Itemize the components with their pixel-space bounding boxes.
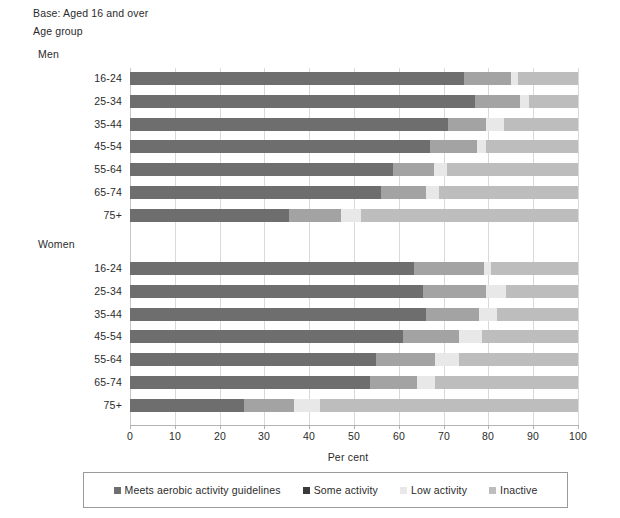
x-tick-label: 100 xyxy=(558,430,598,442)
stacked-bar xyxy=(130,72,578,85)
bar-segment xyxy=(341,209,361,222)
bar-row: 16-24 xyxy=(0,258,620,280)
legend-label: Meets aerobic activity guidelines xyxy=(125,484,281,496)
stacked-bar xyxy=(130,186,578,199)
x-tick-label: 20 xyxy=(200,430,240,442)
bar-segment xyxy=(130,209,289,222)
bar-row: 45-54 xyxy=(0,136,620,158)
bar-row-label: 45-54 xyxy=(0,330,122,342)
stacked-bar xyxy=(130,330,578,343)
bar-segment xyxy=(477,140,486,153)
legend-swatch-icon xyxy=(114,487,121,494)
bar-segment xyxy=(381,186,426,199)
legend-label: Some activity xyxy=(314,484,378,496)
bar-row: 35-44 xyxy=(0,114,620,136)
bar-segment xyxy=(504,118,578,131)
bar-row: 35-44 xyxy=(0,304,620,326)
bar-row: 45-54 xyxy=(0,326,620,348)
bar-segment xyxy=(130,140,430,153)
bar-segment xyxy=(370,376,417,389)
bar-segment xyxy=(479,308,497,321)
bar-segment xyxy=(448,118,486,131)
bar-segment xyxy=(464,72,511,85)
bar-segment xyxy=(361,209,578,222)
legend-item[interactable]: Some activity xyxy=(303,484,378,496)
x-tick xyxy=(220,425,221,429)
bar-row-label: 35-44 xyxy=(0,118,122,130)
bar-segment xyxy=(430,140,477,153)
x-tick xyxy=(399,425,400,429)
bar-segment xyxy=(320,399,578,412)
bar-segment xyxy=(130,330,403,343)
bar-segment xyxy=(130,308,426,321)
bar-segment xyxy=(497,308,578,321)
bar-row-label: 75+ xyxy=(0,399,122,411)
bar-segment xyxy=(486,140,578,153)
stacked-bar xyxy=(130,118,578,131)
bar-row-label: 16-24 xyxy=(0,262,122,274)
bar-segment xyxy=(520,95,529,108)
stacked-bar xyxy=(130,285,578,298)
bar-segment xyxy=(439,186,578,199)
bar-segment xyxy=(130,95,475,108)
bar-segment xyxy=(423,285,486,298)
bar-segment xyxy=(130,72,464,85)
legend-label: Low activity xyxy=(411,484,467,496)
x-tick-label: 0 xyxy=(110,430,150,442)
bar-segment xyxy=(426,308,480,321)
group-heading-women: Women xyxy=(38,238,75,250)
legend-item[interactable]: Inactive xyxy=(489,484,537,496)
bar-row-label: 25-34 xyxy=(0,285,122,297)
bar-row-label: 35-44 xyxy=(0,308,122,320)
bar-row-label: 25-34 xyxy=(0,95,122,107)
stacked-bar xyxy=(130,262,578,275)
bar-segment xyxy=(447,163,578,176)
bar-segment xyxy=(491,262,578,275)
bar-segment xyxy=(435,353,460,366)
bar-segment xyxy=(482,330,578,343)
bar-segment xyxy=(506,285,578,298)
bar-segment xyxy=(289,209,341,222)
legend-swatch-icon xyxy=(489,487,496,494)
x-tick-label: 60 xyxy=(379,430,419,442)
bar-segment xyxy=(486,285,506,298)
x-tick-label: 30 xyxy=(244,430,284,442)
bar-segment xyxy=(244,399,293,412)
bar-segment xyxy=(518,72,578,85)
bar-segment xyxy=(475,95,520,108)
x-tick xyxy=(354,425,355,429)
bar-row: 25-34 xyxy=(0,281,620,303)
legend-item[interactable]: Meets aerobic activity guidelines xyxy=(114,484,281,496)
x-tick-label: 40 xyxy=(289,430,329,442)
legend-swatch-icon xyxy=(400,487,407,494)
stacked-bar xyxy=(130,376,578,389)
x-tick-label: 70 xyxy=(424,430,464,442)
stacked-bar xyxy=(130,95,578,108)
x-tick-label: 80 xyxy=(468,430,508,442)
legend-label: Inactive xyxy=(500,484,537,496)
x-tick xyxy=(488,425,489,429)
bar-row: 75+ xyxy=(0,395,620,417)
stacked-bar xyxy=(130,140,578,153)
x-tick-label: 50 xyxy=(334,430,374,442)
x-tick-label: 90 xyxy=(513,430,553,442)
legend-item[interactable]: Low activity xyxy=(400,484,467,496)
bar-row: 65-74 xyxy=(0,182,620,204)
x-tick xyxy=(175,425,176,429)
stacked-bar-chart: 0102030405060708090100 Men Women 16-2425… xyxy=(0,0,620,440)
bar-segment xyxy=(435,376,578,389)
x-tick xyxy=(309,425,310,429)
bar-segment xyxy=(130,262,414,275)
bar-segment xyxy=(511,72,518,85)
x-tick xyxy=(533,425,534,429)
bar-segment xyxy=(459,353,578,366)
bar-segment xyxy=(294,399,321,412)
bar-row: 16-24 xyxy=(0,68,620,90)
bar-segment xyxy=(426,186,439,199)
bar-segment xyxy=(403,330,459,343)
bar-row: 25-34 xyxy=(0,91,620,113)
bar-segment xyxy=(434,163,447,176)
bar-row-label: 55-64 xyxy=(0,353,122,365)
bar-row-label: 45-54 xyxy=(0,140,122,152)
bar-segment xyxy=(130,285,423,298)
